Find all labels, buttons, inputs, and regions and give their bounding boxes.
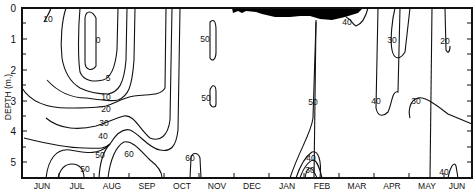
y-tick-label: 4 [10,126,16,137]
contour-label: 50 [200,34,210,44]
contour-label: 60 [185,153,195,163]
x-tick-label: JAN [279,181,295,191]
x-tick-label: FEB [314,181,331,191]
contour-label: 30 [305,165,315,175]
contour-label: 30 [99,118,109,128]
contour-label: 5 [106,73,111,83]
contour-label: 40 [342,17,352,27]
y-tick-label: 5 [10,157,16,168]
contour-label: 40 [371,96,381,106]
x-tick-label: NOV [208,181,227,191]
contour-label: 50 [95,150,105,160]
x-tick-label: JUN [449,181,466,191]
x-tick-label: JUN [34,181,51,191]
contour-label: 40 [306,153,316,163]
contour-label: 20 [101,104,111,114]
x-tick-label: SEP [138,181,155,191]
contour-chart: 0 1 2 3 4 5 DEPTH (m.) JUN JUL AUG SEP O… [0,0,476,193]
contour-label: 60 [124,149,134,159]
contour-label: 0 [96,35,101,45]
y-axis: 0 1 2 3 4 5 DEPTH (m.) [3,3,472,168]
contour-labels: 10 0 5 10 20 30 40 50 60 50 50 50 60 50 … [43,14,450,177]
y-tick-label: 0 [10,3,16,14]
x-tick-label: MAY [418,181,436,191]
x-axis: JUN JUL AUG SEP OCT NOV DEC JAN FEB MAR … [34,173,466,191]
x-tick-label: APR [383,181,400,191]
y-axis-label: DEPTH (m.) [3,74,13,120]
x-tick-label: OCT [173,181,191,191]
contour-label: 40 [439,167,449,177]
y-tick-label: 1 [10,34,16,45]
contour-label: 30 [387,35,397,45]
x-tick-label: AUG [103,181,121,191]
contour-label: 10 [101,92,111,102]
contour-label: 50 [80,164,90,174]
contour-label: 40 [98,131,108,141]
x-tick-label: DEC [243,181,261,191]
contour-lines [22,8,472,178]
x-tick-label: JUL [69,181,84,191]
x-tick-label: MAR [348,181,367,191]
contour-label: 20 [440,36,450,46]
contour-label: 10 [43,14,53,24]
contour-label: 50 [201,93,211,103]
contour-label: 50 [308,97,318,107]
contour-label: 30 [411,96,421,106]
